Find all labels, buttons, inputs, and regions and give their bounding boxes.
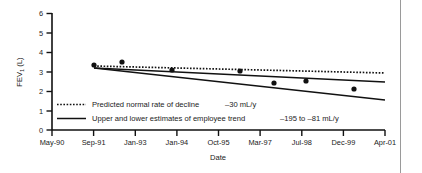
legend-label-predicted-normal: Predicted normal rate of decline	[92, 100, 199, 109]
y-tick-label-6: 6	[39, 9, 43, 18]
y-axis-tick-labels: 6 5 4 3 2 1 0	[39, 9, 43, 135]
legend-value-employee-trend: –195 to –81 mL/y	[280, 114, 339, 123]
chart-figure: 6 5 4 3 2 1 0 FEV1 (L)	[0, 0, 422, 173]
y-axis-ticks	[47, 14, 53, 131]
y-tick-label-1: 1	[39, 107, 43, 116]
data-point	[303, 78, 308, 83]
x-tick-label-1: Sep-91	[82, 138, 106, 147]
x-tick-label-7: Dec-99	[331, 138, 355, 147]
legend-value-predicted-normal: –30 mL/y	[225, 100, 256, 109]
x-axis-tick-labels: May-90 Sep-91 Jan-93 Jan-94 Oct-95 Mar-9…	[40, 138, 396, 147]
series-scatter-observed	[91, 59, 356, 91]
x-tick-label-5: Mar-97	[248, 138, 271, 147]
svg-text:FEV1 (L): FEV1 (L)	[15, 57, 25, 87]
x-tick-label-6: Jul-98	[292, 138, 312, 147]
x-tick-label-0: May-90	[40, 138, 65, 147]
x-tick-label-2: Jan-93	[124, 138, 147, 147]
data-point	[271, 80, 276, 85]
y-tick-label-3: 3	[39, 68, 43, 77]
fev1-decline-chart: 6 5 4 3 2 1 0 FEV1 (L)	[0, 0, 422, 173]
x-tick-label-3: Jan-94	[166, 138, 189, 147]
x-axis-title: Date	[210, 153, 226, 162]
x-axis-ticks	[52, 130, 385, 136]
chart-legend: Predicted normal rate of decline –30 mL/…	[57, 100, 339, 123]
x-tick-label-8: Apr-01	[374, 138, 396, 147]
y-axis-title: FEV1 (L)	[15, 57, 25, 87]
y-axis-title-unit: (L)	[15, 57, 24, 69]
legend-label-employee-trend: Upper and lower estimates of employee tr…	[92, 114, 245, 123]
x-tick-label-4: Oct-95	[207, 138, 229, 147]
data-point	[237, 68, 242, 73]
data-point	[169, 67, 174, 72]
data-point	[91, 62, 96, 67]
y-tick-label-0: 0	[39, 126, 43, 135]
y-tick-label-5: 5	[39, 29, 43, 38]
data-point	[119, 59, 124, 64]
y-axis-title-main: FEV	[15, 71, 24, 87]
y-tick-label-4: 4	[39, 48, 43, 57]
data-point	[351, 86, 356, 91]
y-tick-label-2: 2	[39, 87, 43, 96]
